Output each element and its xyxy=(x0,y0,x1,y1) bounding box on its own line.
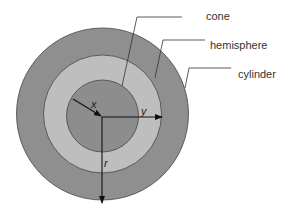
hemisphere-label: hemisphere xyxy=(210,39,267,51)
x-label: x xyxy=(90,98,97,110)
concentric-circles-diagram: x y r cone hemisphere cylinder xyxy=(0,0,289,214)
cylinder-label: cylinder xyxy=(238,68,276,80)
cylinder-leader-line xyxy=(185,68,231,88)
cone-label: cone xyxy=(206,10,230,22)
